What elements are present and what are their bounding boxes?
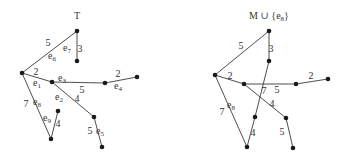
edge-name-label: e3 (58, 72, 66, 85)
edge-name-label: e8 (227, 99, 235, 112)
edge-weight-label: 5 (46, 37, 51, 48)
vertex-node (50, 80, 55, 85)
diagram-title: T (74, 10, 80, 21)
edge-name-label: e4 (114, 80, 122, 93)
vertex-node (326, 77, 331, 82)
edge-weight-label: 4 (251, 127, 256, 138)
vertex-node (267, 29, 272, 34)
edge-weight-label: 5 (275, 84, 280, 95)
edge-weight-label: 7 (24, 98, 29, 109)
vertex-node (245, 145, 250, 150)
vertex-node (267, 59, 272, 64)
vertex-node (92, 115, 97, 120)
edge (286, 118, 293, 148)
vertex-node (135, 75, 140, 80)
edge-weight-label: 7 (220, 106, 225, 117)
edge-weight-label: 4 (56, 118, 61, 129)
vertex-node (56, 109, 61, 114)
vertex-node (294, 82, 299, 87)
edge-weight-label: 5 (80, 84, 85, 95)
edge-weight-label: 4 (75, 93, 80, 104)
edge-weight-label: 7 (262, 85, 267, 96)
vertex-node (103, 81, 108, 86)
vertex-node (20, 71, 25, 76)
vertex-node (284, 116, 289, 121)
vertex-node (75, 29, 80, 34)
vertex-node (213, 73, 218, 78)
edge (215, 31, 269, 75)
edge-weight-label: 2 (34, 66, 39, 77)
edge-name-label: e5 (96, 125, 104, 138)
edge-name-label: e6 (48, 50, 56, 63)
spanning-tree-t: 5e6e732e1e352e4e247e8e945e5T (20, 10, 140, 149)
edge-name-label: e7 (63, 42, 71, 55)
edge-name-label: e2 (55, 91, 63, 104)
vertex-node (253, 115, 258, 120)
spanning-tree-m-union-e8: 5327524e8745M ∪ {e8} (213, 10, 331, 150)
edge-name-label: e8 (33, 96, 41, 109)
edge-weight-label: 5 (239, 40, 244, 51)
edge-weight-label: 4 (270, 98, 275, 109)
edge-weight-label: 2 (228, 70, 233, 81)
vertex-node (242, 82, 247, 87)
edge-e4 (105, 77, 137, 83)
diagram-canvas: 5e6e732e1e352e4e247e8e945e5T 5327524e874… (0, 0, 346, 160)
edge-weight-label: 2 (116, 68, 121, 79)
vertex-node (100, 145, 105, 150)
vertex-node (49, 137, 54, 142)
edge-weight-label: 2 (309, 70, 314, 81)
diagram-title: M ∪ {e8} (249, 10, 289, 23)
edge-weight-label: 3 (78, 43, 83, 54)
vertex-node (75, 59, 80, 64)
vertex-node (291, 146, 296, 151)
edge-weight-label: 3 (269, 43, 274, 54)
edge-weight-label: 5 (280, 126, 285, 137)
edge-weight-label: 5 (88, 125, 93, 136)
edge-name-label: e1 (33, 77, 41, 90)
